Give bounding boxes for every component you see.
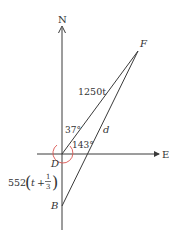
segment-BF-label: d: [103, 124, 109, 135]
angle-143-label: 143°: [72, 140, 94, 150]
segment-DF-label: 1250t: [78, 86, 106, 97]
svg-text:t: t: [31, 177, 35, 188]
svg-text:1: 1: [46, 173, 50, 181]
east-label: E: [162, 149, 169, 160]
svg-text:552: 552: [8, 177, 26, 188]
svg-text:+: +: [37, 177, 45, 188]
east-arrow-icon: [154, 151, 160, 157]
svg-text:): ): [52, 173, 58, 192]
svg-text:3: 3: [46, 183, 50, 191]
diagram-canvas: N E F D B 1250t d 37° 143° 552 ( t + 1 3…: [0, 0, 175, 240]
point-D-label: D: [50, 158, 59, 169]
angle-37-label: 37°: [65, 125, 81, 135]
segment-DB-label: 552 ( t + 1 3 ): [8, 173, 58, 192]
segment-DF: [62, 51, 138, 154]
point-F-label: F: [139, 38, 148, 49]
point-B-label: B: [50, 200, 58, 211]
north-label: N: [58, 14, 67, 25]
